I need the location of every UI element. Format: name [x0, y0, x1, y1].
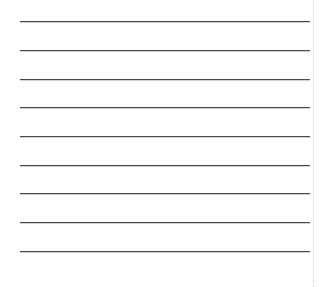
ruled-line	[20, 222, 310, 223]
lined-sheet	[0, 0, 320, 287]
ruled-line	[20, 21, 310, 22]
ruled-line	[20, 79, 310, 80]
ruled-line	[20, 107, 310, 108]
ruled-line	[20, 50, 310, 51]
ruled-line	[20, 251, 310, 252]
dotted-margin-line	[313, 0, 314, 287]
ruled-line	[20, 165, 310, 166]
ruled-line	[20, 136, 310, 137]
ruled-line	[20, 193, 310, 194]
